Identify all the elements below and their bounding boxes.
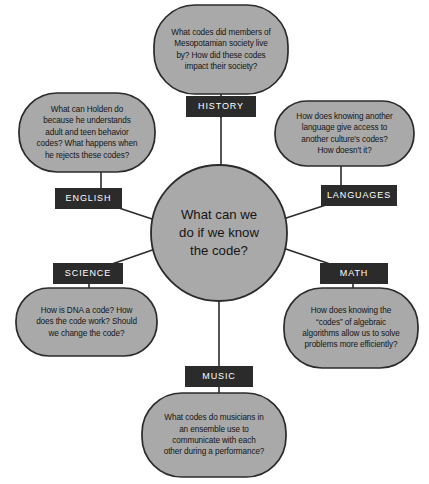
bubble-history[interactable] bbox=[154, 5, 288, 94]
bubble-science[interactable] bbox=[16, 288, 157, 356]
concept-map-diagram: What codes did members of Mesopotamian s… bbox=[0, 0, 429, 484]
label-box-history[interactable] bbox=[186, 96, 256, 117]
bubble-math[interactable] bbox=[284, 288, 418, 368]
bubble-english[interactable] bbox=[19, 93, 155, 172]
bubble-music[interactable] bbox=[142, 393, 286, 477]
label-box-science[interactable] bbox=[53, 263, 123, 284]
bubble-languages[interactable] bbox=[275, 101, 414, 166]
label-box-music[interactable] bbox=[185, 366, 253, 387]
center-circle[interactable] bbox=[151, 165, 287, 301]
label-box-math[interactable] bbox=[320, 263, 388, 284]
label-box-languages[interactable] bbox=[321, 185, 397, 206]
diagram-canvas bbox=[0, 0, 429, 484]
label-box-english[interactable] bbox=[55, 188, 122, 209]
